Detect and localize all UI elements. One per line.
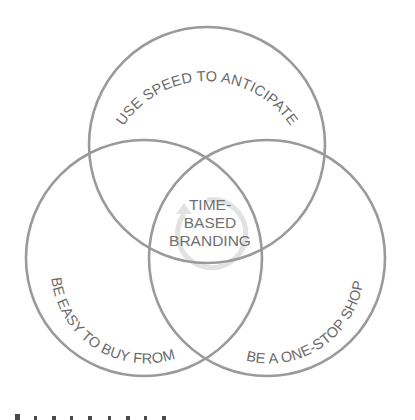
circle-left bbox=[26, 140, 262, 376]
center-line-3: BRANDING bbox=[169, 232, 251, 249]
center-line-1: TIME- bbox=[189, 196, 231, 213]
venn-diagram: USE SPEED TO ANTICIPATE BE EASY TO BUY F… bbox=[0, 0, 415, 420]
cropped-caption-fragment bbox=[15, 414, 166, 420]
label-right: BE A ONE-STOP SHOP bbox=[245, 279, 366, 366]
label-left: BE EASY TO BUY FROM bbox=[48, 276, 176, 366]
center-line-2: BASED bbox=[184, 214, 237, 231]
label-top: USE SPEED TO ANTICIPATE bbox=[113, 68, 301, 128]
